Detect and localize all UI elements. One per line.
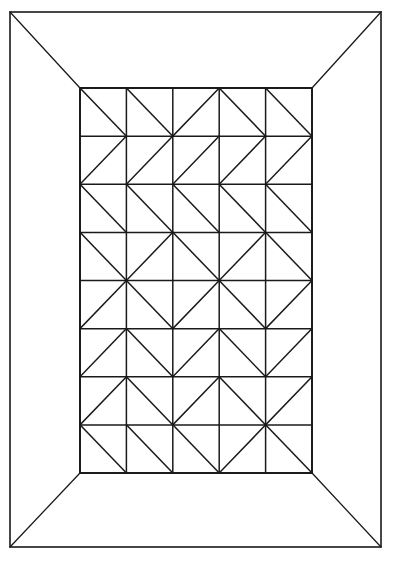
quilt-panel-figure [0,0,399,565]
drawing-canvas [0,0,399,565]
canvas-background [0,0,399,565]
